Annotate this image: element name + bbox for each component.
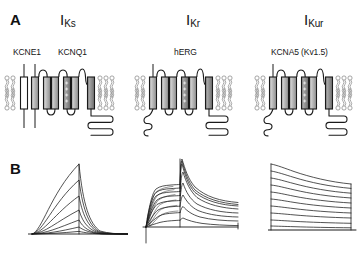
gene-label-herg: hERG — [174, 48, 197, 57]
current-label-ikr: IKr — [186, 12, 200, 27]
lipid-bilayer-right — [336, 76, 352, 110]
lipid-bilayer-right — [216, 76, 232, 110]
current-label-ikur-sub: Kur — [308, 18, 323, 29]
lipid-bilayer-left — [255, 76, 265, 110]
current-label-iks-sub: Ks — [64, 18, 75, 29]
panel-a-letter: A — [10, 12, 21, 27]
current-label-ikr-sub: Kr — [190, 18, 200, 29]
trace-family-iks — [28, 164, 128, 234]
panel-b-letter: B — [10, 161, 21, 176]
subunit-herg — [144, 64, 228, 136]
n-terminal-squiggle — [144, 109, 153, 136]
gene-label-kcne1: KCNE1 — [13, 48, 41, 57]
trace-family-ikur — [268, 164, 356, 230]
lipid-bilayer-left — [135, 76, 145, 110]
lipid-bilayer-left — [5, 76, 15, 110]
current-traces-ikr — [140, 155, 248, 250]
current-label-ikur: IKur — [304, 12, 323, 27]
current-label-iks: IKs — [60, 12, 75, 27]
gene-label-kcna5: KCNA5 (Kv1.5) — [271, 48, 328, 57]
current-traces-iks — [28, 158, 128, 243]
subunit-kcnq1 — [32, 64, 114, 135]
c-terminal-meander — [326, 109, 347, 135]
topology-diagram-ikr — [132, 58, 244, 144]
topology-diagram-iks — [2, 58, 130, 144]
lipid-bilayer-right — [98, 76, 114, 110]
n-terminal-squiggle — [264, 109, 273, 136]
figure-root: A IKs IKr IKur KCNE1 KCNQ1 hERG KCNA5 (K… — [0, 0, 363, 254]
c-terminal-meander — [206, 109, 228, 135]
subunit-kcne1 — [21, 64, 28, 128]
topology-diagram-ikur — [252, 58, 362, 144]
trace-family-ikr — [143, 159, 238, 243]
current-traces-ikur — [268, 158, 358, 243]
c-terminal-meander — [88, 109, 113, 135]
subunit-kcna5 — [264, 64, 347, 136]
gene-label-kcnq1: KCNQ1 — [58, 48, 87, 57]
